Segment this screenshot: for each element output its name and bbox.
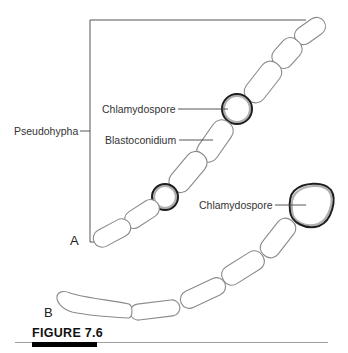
cell (90, 216, 134, 251)
panel-b-pseudohypha (57, 184, 334, 321)
cell (257, 215, 300, 262)
panel-a-label: A (70, 233, 79, 248)
cell (218, 247, 268, 288)
figure-caption-label: FIGURE 7.6 (32, 326, 103, 340)
cell (177, 275, 228, 312)
caption-bar (32, 342, 97, 347)
blastoconidium-label: Blastoconidium (105, 134, 176, 146)
cell (129, 299, 181, 321)
chlamydospore-b-label: Chlamydospore (199, 199, 273, 211)
panel-b-label: B (44, 305, 53, 320)
pseudohypha-label: Pseudohypha (14, 125, 78, 137)
figure-diagram: Chlamydospore Pseudohypha Blastoconidium… (0, 0, 348, 353)
terminal-cell (57, 292, 132, 318)
chlamydospore-a-label: Chlamydospore (102, 103, 176, 115)
